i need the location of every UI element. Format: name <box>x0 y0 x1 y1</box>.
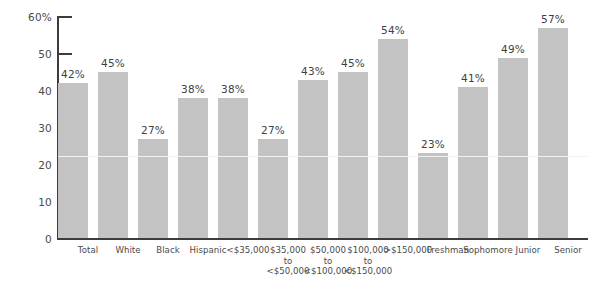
bar-12[interactable] <box>538 28 568 238</box>
bar-3[interactable] <box>178 98 208 238</box>
bar-value-11: 49% <box>490 43 536 55</box>
bar-value-4: 38% <box>210 83 256 95</box>
reference-guide-line <box>58 156 588 157</box>
y-tick-label-10: 10 <box>14 196 52 208</box>
bar-2[interactable] <box>138 139 168 238</box>
y-tick-label-20: 20 <box>14 159 52 171</box>
bar-9[interactable] <box>418 153 448 238</box>
bar-6[interactable] <box>298 80 328 238</box>
bar-group-9: 23% <box>418 0 448 239</box>
bar-11[interactable] <box>498 58 528 238</box>
y-tick-label-50: 50 <box>14 48 52 60</box>
y-axis-labels: 60% 50 40 30 20 10 0 <box>6 0 52 295</box>
bar-group-11: 49% <box>498 0 528 239</box>
bar-group-1: 45% <box>98 0 128 239</box>
bar-group-7: 45% <box>338 0 368 239</box>
bar-group-5: 27% <box>258 0 288 239</box>
bar-5[interactable] <box>258 139 288 238</box>
bar-group-6: 43% <box>298 0 328 239</box>
y-tick-label-30: 30 <box>14 122 52 134</box>
bar-0[interactable] <box>58 83 88 238</box>
bar-value-10: 41% <box>450 72 496 84</box>
bar-group-3: 38% <box>178 0 208 239</box>
bar-value-1: 45% <box>90 57 136 69</box>
bar-value-5: 27% <box>250 124 296 136</box>
bar-8[interactable] <box>378 39 408 238</box>
y-tick-label-40: 40 <box>14 85 52 97</box>
x-label-12: Senior <box>538 245 596 256</box>
y-tick-label-0: 0 <box>14 233 52 245</box>
bar-4[interactable] <box>218 98 248 238</box>
bar-group-0: 42% <box>58 0 88 239</box>
bar-group-12: 57% <box>538 0 568 239</box>
bar-value-7: 45% <box>330 57 376 69</box>
bar-chart: 60% 50 40 30 20 10 0 42% 45% 27% 38% 38%… <box>0 0 596 295</box>
bar-group-2: 27% <box>138 0 168 239</box>
bar-value-0: 42% <box>50 68 96 80</box>
bar-value-2: 27% <box>130 124 176 136</box>
bar-value-12: 57% <box>530 13 576 25</box>
x-axis-line <box>57 238 588 240</box>
bar-10[interactable] <box>458 87 488 238</box>
plot-area: 42% 45% 27% 38% 38% 27% 43% 45% 54% 23% … <box>58 0 588 239</box>
bar-group-4: 38% <box>218 0 248 239</box>
y-tick-label-60: 60% <box>14 11 52 23</box>
x-axis-labels: Total White Black Hispanic <$35,000 $35,… <box>58 245 588 295</box>
bar-value-9: 23% <box>410 138 456 150</box>
bar-group-8: 54% <box>378 0 408 239</box>
bar-value-8: 54% <box>370 24 416 36</box>
bar-group-10: 41% <box>458 0 488 239</box>
